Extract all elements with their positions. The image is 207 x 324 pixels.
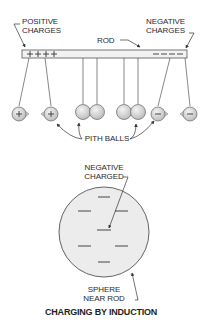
diagram-title: CHARGING BY INDUCTION — [45, 307, 157, 317]
pith-ball-far-left — [12, 107, 29, 121]
pith-ball-center-right-b — [131, 105, 146, 120]
positive-charges-label: POSITIVE CHARGES — [22, 17, 61, 35]
pith-ball-center-right-a — [117, 105, 132, 120]
pith-ball-far-right — [180, 107, 197, 121]
sphere-label-line2: NEAR ROD — [72, 294, 136, 303]
sphere-label: SPHERE NEAR ROD — [72, 285, 136, 303]
negative-label-line2: CHARGES — [146, 26, 185, 35]
sphere-charge-label: NEGATIVE CHARGED — [74, 163, 134, 181]
pith-ball-right — [151, 107, 168, 121]
negative-label-line1: NEGATIVE — [146, 17, 185, 26]
positive-label-line1: POSITIVE — [22, 17, 61, 26]
sphere-charge-line2: CHARGED — [74, 172, 134, 181]
pith-ball-threads — [19, 58, 190, 106]
negative-charges-label: NEGATIVE CHARGES — [146, 17, 185, 35]
rod — [22, 50, 187, 58]
rod-label: ROD — [97, 36, 114, 45]
sphere-near-rod — [59, 187, 149, 277]
positive-label-line2: CHARGES — [22, 26, 61, 35]
sphere-charge-line1: NEGATIVE — [74, 163, 134, 172]
sphere-label-line1: SPHERE — [72, 285, 136, 294]
pith-ball-left — [41, 107, 58, 121]
induction-diagram — [0, 0, 207, 324]
pith-balls-label: PITH BALLS — [82, 134, 132, 143]
pith-ball-center-left-b — [90, 105, 105, 120]
pith-ball-center-left-a — [76, 105, 91, 120]
